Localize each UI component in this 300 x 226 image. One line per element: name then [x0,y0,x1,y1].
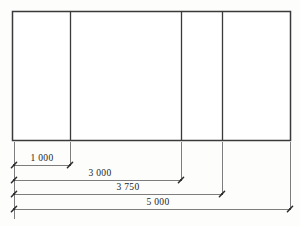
dimension-3000-label: 3 000 [89,168,112,178]
panel-2 [70,11,181,140]
panel-1 [12,11,70,140]
panel-elevation [12,11,291,141]
dimension-5000-tick-start-dot [13,208,15,210]
dimension-5000-tick-end-dot [289,208,291,210]
dimension-1000-label: 1 000 [31,153,54,163]
panel-3 [181,11,222,140]
dimension-5000-label: 5 000 [147,197,170,207]
dimension-1000-tick-end-dot [69,164,71,166]
technical-drawing: 1 0003 0003 7505 000 [0,0,300,226]
dimension-3750-tick-end-dot [221,193,223,195]
dimension-3000-tick-start-dot [13,179,15,181]
drawing-canvas: 1 0003 0003 7505 000 [0,0,300,226]
dimension-3750-label: 3 750 [117,182,140,192]
panel-4 [222,11,290,140]
dimension-3750-tick-start-dot [13,193,15,195]
dimension-3000-tick-end-dot [180,179,182,181]
dimension-1000-tick-start-dot [13,164,15,166]
